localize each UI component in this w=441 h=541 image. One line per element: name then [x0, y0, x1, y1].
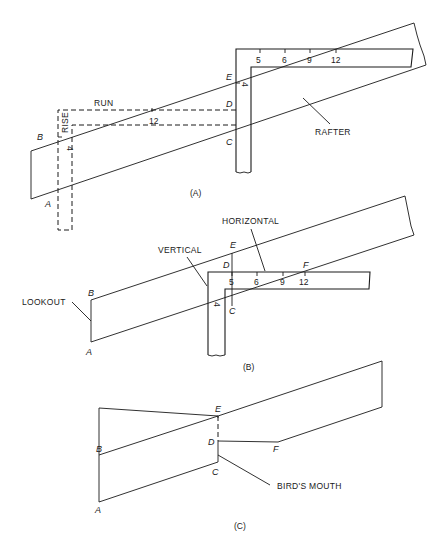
point-f-c: F [273, 444, 279, 454]
point-d: D [226, 99, 233, 109]
caption-a: (A) [190, 188, 202, 198]
point-a: A [44, 199, 51, 209]
panel-a: 5 6 9 12 4 12 4 RUN RISE RAFTER B A C D … [31, 23, 426, 230]
point-d-b: D [223, 260, 230, 270]
birds-mouth-leader [218, 455, 270, 485]
point-a-c: A [94, 505, 101, 515]
panel-b: 5 6 9 12 4 HORIZONTAL VERTICAL LOOKOUT B… [22, 196, 414, 372]
point-d-c: D [208, 437, 215, 447]
tick-9: 9 [307, 55, 312, 65]
framing-square-b [208, 253, 370, 356]
rise-value: 4 [65, 146, 75, 151]
point-e-c: E [215, 404, 222, 414]
point-a-b: A [85, 347, 92, 357]
point-b-b: B [88, 288, 94, 298]
run-value: 12 [149, 116, 159, 126]
tick-5-b: 5 [229, 277, 234, 287]
rafter-layout-diagram: 5 6 9 12 4 12 4 RUN RISE RAFTER B A C D … [0, 0, 441, 541]
caption-b: (B) [243, 362, 255, 372]
caption-c: (C) [234, 521, 246, 531]
tongue-value-4: 4 [240, 82, 250, 87]
point-f-b: F [303, 260, 309, 270]
tick-12: 12 [331, 55, 341, 65]
tick-6-b: 6 [254, 277, 259, 287]
point-e: E [226, 72, 233, 82]
lookout-label: LOOKOUT [22, 297, 66, 307]
horizontal-leader [251, 229, 265, 271]
point-b: B [37, 132, 43, 142]
birds-mouth-label: BIRD'S MOUTH [277, 481, 342, 491]
dashed-square-a [58, 108, 236, 230]
tick-9-b: 9 [280, 277, 285, 287]
point-c-c: C [212, 467, 219, 477]
point-c: C [226, 137, 233, 147]
point-b-c: B [96, 444, 102, 454]
tongue-value-4-b: 4 [212, 302, 222, 307]
framing-square-a [236, 49, 413, 173]
lookout-leader [72, 302, 91, 321]
rise-label: RISE [60, 112, 70, 133]
tick-12-b: 12 [299, 277, 309, 287]
horizontal-label: HORIZONTAL [222, 216, 279, 226]
panel-c: BIRD'S MOUTH B A C D E F (C) [94, 361, 382, 531]
tick-6: 6 [282, 55, 287, 65]
point-c-b: C [229, 306, 236, 316]
tick-5: 5 [256, 55, 261, 65]
vertical-leader [187, 257, 207, 286]
vertical-label: VERTICAL [158, 245, 202, 255]
point-e-b: E [230, 240, 237, 250]
run-label: RUN [94, 98, 113, 108]
rafter-label: RAFTER [315, 127, 351, 137]
